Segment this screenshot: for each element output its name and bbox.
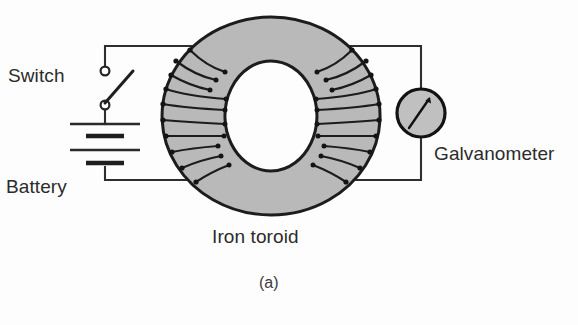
winding-dot [376, 101, 381, 106]
winding-dot [193, 179, 198, 184]
galvanometer-symbol[interactable] [397, 89, 445, 137]
winding-dot [367, 149, 372, 154]
winding-dot [168, 72, 173, 77]
winding-dot-inner [224, 97, 229, 102]
label-switch: Switch [8, 65, 65, 86]
winding-dot [343, 179, 348, 184]
winding-dot [163, 86, 168, 91]
winding-dot [179, 165, 184, 170]
galvanometer-dial[interactable] [397, 89, 445, 137]
winding-dot [187, 47, 192, 52]
winding-dot-inner [314, 97, 319, 102]
winding-dot [357, 165, 362, 170]
winding-dot-inner [219, 154, 224, 159]
winding-dot-inner [315, 122, 320, 127]
winding-dot-inner [227, 163, 232, 168]
winding-dot [349, 47, 354, 52]
winding-dot [173, 58, 178, 63]
winding-dot [163, 133, 168, 138]
winding-dot [373, 133, 378, 138]
winding-dot [373, 86, 378, 91]
label-galvanometer: Galvanometer [434, 143, 555, 164]
winding-dot-inner [330, 88, 335, 93]
figure-container: Switch Battery Galvanometer Iron toroid … [0, 0, 578, 325]
iron-toroid-core [162, 17, 380, 215]
winding-dot-inner [208, 88, 213, 93]
winding-dot-inner [315, 108, 320, 113]
label-battery: Battery [6, 176, 67, 197]
winding-dot [160, 117, 165, 122]
winding-dot [160, 101, 165, 106]
winding-dot-inner [319, 154, 324, 159]
winding-dot-inner [316, 134, 321, 139]
winding-dot-inner [223, 122, 228, 127]
winding-dot-inner [214, 78, 219, 83]
winding-dot [169, 149, 174, 154]
toroid-annulus [162, 17, 380, 215]
winding-dot [376, 117, 381, 122]
winding-dot [363, 58, 368, 63]
winding-dot-inner [223, 70, 228, 75]
winding-dot-inner [216, 144, 221, 149]
winding-dot-inner [222, 134, 227, 139]
battery-symbol [70, 124, 140, 163]
switch-terminal-top[interactable] [101, 67, 110, 76]
winding-dot [368, 72, 373, 77]
switch-symbol[interactable] [101, 67, 133, 110]
circuit-diagram-svg: Switch Battery Galvanometer Iron toroid … [0, 0, 578, 325]
figure-caption: (a) [259, 274, 279, 291]
winding-dot-inner [311, 163, 316, 168]
winding-dot-inner [324, 78, 329, 83]
label-iron-toroid: Iron toroid [212, 226, 299, 247]
winding-dot-inner [223, 108, 228, 113]
switch-blade[interactable] [105, 71, 133, 103]
winding-dot-inner [322, 144, 327, 149]
winding-dot-inner [315, 70, 320, 75]
